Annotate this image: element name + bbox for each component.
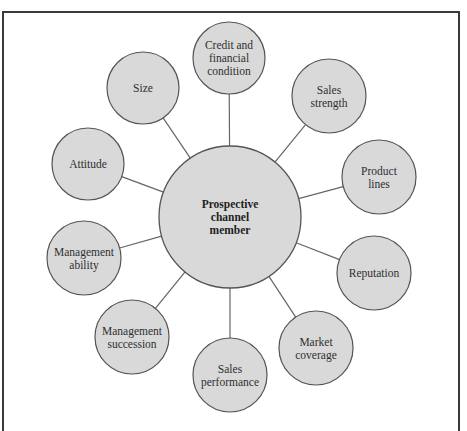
connector-management-ability [120,236,162,248]
node-attitude: Attitude [52,128,124,200]
node-sales-performance: Salesperformance [193,338,267,412]
node-label-line: strength [310,97,347,110]
connector-product-lines [299,187,344,199]
node-label-line: condition [207,65,251,77]
node-label-line: lines [368,178,390,190]
node-size: Size [107,52,179,124]
node-label-line: Product [361,165,398,177]
node-label-line: Sales [317,84,342,96]
node-label-line: ability [69,259,99,272]
node-label-line: member [210,224,251,236]
hub-node: Prospectivechannelmember [159,146,301,288]
node-label-line: performance [201,376,259,389]
node-label-line: Management [102,325,163,338]
node-label-line: Reputation [349,267,400,280]
node-label-line: Market [299,336,333,348]
connector-attitude [122,177,164,193]
node-label-line: financial [209,52,249,64]
node-label-line: Attitude [69,158,107,170]
connector-size [163,118,190,158]
node-market-coverage: Marketcoverage [279,311,353,385]
node-label-line: Prospective [202,198,259,211]
connector-reputation [296,243,339,260]
node-label-line: Management [54,246,115,259]
node-management-succession: Managementsuccession [95,300,169,374]
node-label-line: Size [133,82,153,94]
node-label-line: channel [211,211,249,223]
node-label-line: coverage [295,349,337,362]
node-credit: Credit andfinancialcondition [193,22,265,94]
node-label-line: Credit and [205,39,253,51]
node-label-line: Sales [218,363,243,375]
node-product-lines: Productlines [342,140,416,214]
connector-market-coverage [269,276,296,317]
node-label-line: succession [107,338,156,350]
node-reputation: Reputation [337,236,411,310]
connector-management-succession [155,272,185,308]
node-management-ability: Managementability [47,221,121,295]
node-sales-strength: Salesstrength [292,59,366,133]
connector-sales-strength [275,125,306,162]
